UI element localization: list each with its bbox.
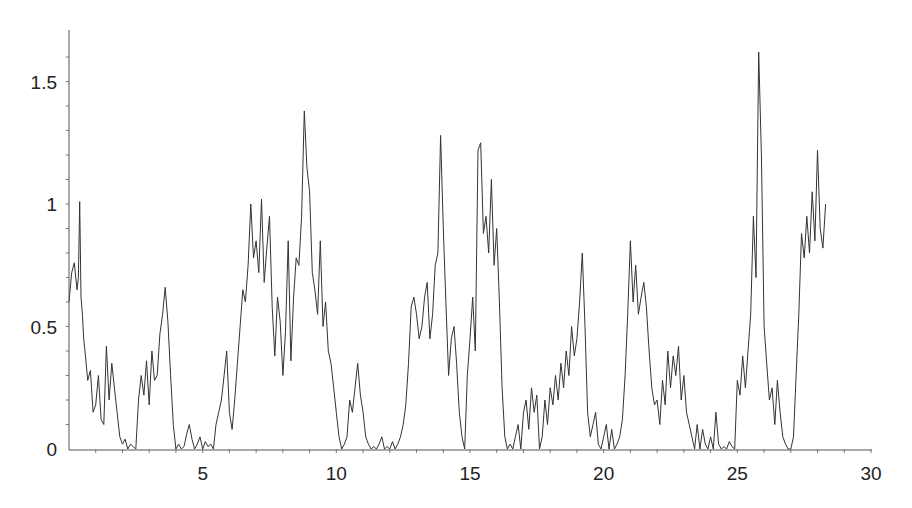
- x-tick-label: 25: [727, 463, 748, 484]
- x-tick-label: 10: [326, 463, 347, 484]
- plot-line: [69, 52, 826, 449]
- x-tick-label: 5: [197, 463, 208, 484]
- x-tick-label: 20: [593, 463, 614, 484]
- x-tick-label: 15: [459, 463, 480, 484]
- x-tick-label: 30: [860, 463, 881, 484]
- y-tick-label: 1: [46, 194, 57, 215]
- signal-line: [69, 52, 826, 449]
- y-tick-label: 0: [46, 439, 57, 460]
- x-axis: 51015202530: [69, 449, 882, 484]
- y-axis: 00.511.5: [31, 30, 69, 460]
- line-chart: 00.511.5 51015202530: [0, 0, 912, 508]
- y-tick-label: 0.5: [31, 317, 57, 338]
- y-tick-label: 1.5: [31, 72, 57, 93]
